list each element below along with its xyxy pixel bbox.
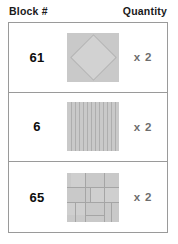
patch-line: [85, 173, 86, 222]
block-quantity-table: 61 x 2 6 x 2 65: [8, 22, 168, 233]
table-row[interactable]: 61 x 2: [9, 23, 167, 93]
stripe-line: [79, 102, 80, 151]
stripe-line: [87, 102, 88, 151]
block-number-column-header: Block #: [9, 5, 48, 17]
block-number-cell: 65: [9, 162, 65, 232]
patchwork-grid-pattern: [67, 173, 119, 222]
stripe-line: [115, 102, 116, 151]
table-row[interactable]: 6 x 2: [9, 93, 167, 163]
patch-line: [67, 187, 86, 188]
quantity-column-header: Quantity: [123, 5, 167, 17]
block-swatch-cell: [65, 23, 121, 92]
stripe-line: [99, 102, 100, 151]
patch-line: [75, 202, 76, 222]
stripe-line: [71, 102, 72, 151]
patch-line: [85, 215, 105, 216]
patch-tile: [67, 203, 85, 215]
stripe-line: [103, 102, 104, 151]
stripe-line: [111, 102, 112, 151]
stripe-line: [107, 102, 108, 151]
patch-tile: [71, 173, 86, 187]
stripe-line: [95, 102, 96, 151]
quantity-cell: x 2: [119, 23, 167, 92]
block-number-cell: 61: [9, 23, 65, 92]
patch-line: [90, 187, 91, 203]
stripe-line: [83, 102, 84, 151]
quantity-cell: x 2: [119, 162, 167, 232]
quantity-cell: x 2: [119, 93, 167, 162]
stripe-line: [91, 102, 92, 151]
diamond-shape: [70, 34, 117, 81]
vertical-stripes-pattern: [67, 102, 119, 151]
stripe-line: [75, 102, 76, 151]
patch-line: [104, 173, 105, 222]
table-row[interactable]: 65 x 2: [9, 162, 167, 232]
patch-tile: [105, 188, 119, 202]
block-quantity-page: { "header": { "block_column_label": "Blo…: [0, 0, 178, 244]
block-swatch-cell: [65, 162, 121, 232]
block-number-cell: 6: [9, 93, 65, 162]
patch-tile: [90, 187, 104, 202]
block-swatch-cell: [65, 93, 121, 162]
patch-line: [111, 202, 112, 222]
diamond-in-square-pattern: [67, 33, 119, 82]
column-header-bar: Block # Quantity: [0, 2, 178, 20]
